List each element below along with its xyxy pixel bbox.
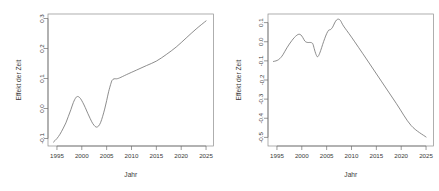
right-plot-svg: 1995200020052010201520202025-0.5-0.4-0.3…	[220, 0, 439, 191]
x-axis-tick-label: 2000	[294, 152, 308, 159]
x-axis-tick-label: 2015	[149, 152, 163, 159]
plot-box	[268, 14, 434, 146]
x-axis-tick-label: 2005	[319, 152, 333, 159]
y-axis-tick-label: -0.1	[38, 133, 45, 144]
y-axis-title: Effekt der Zeit	[234, 59, 241, 100]
y-axis-tick-label: 0.0	[38, 104, 45, 113]
y-axis-tick-label: -0.2	[257, 74, 264, 85]
x-axis-tick-label: 1995	[50, 152, 64, 159]
x-axis-tick-label: 2015	[369, 152, 383, 159]
y-axis-tick-label: -0.1	[257, 55, 264, 66]
chart-panel-left: 1995200020052010201520202025-0.10.00.10.…	[0, 0, 220, 191]
y-axis-tick-label: 0.3	[38, 14, 45, 23]
y-axis-tick-label: 0.1	[257, 18, 264, 27]
x-axis-title: Jahr	[124, 171, 138, 178]
chart-panel-right: 1995200020052010201520202025-0.5-0.4-0.3…	[220, 0, 439, 191]
x-axis-tick-label: 1995	[270, 152, 284, 159]
y-axis-tick-label: 0.1	[38, 74, 45, 83]
x-axis-tick-label: 2025	[199, 152, 213, 159]
x-axis-tick-label: 2020	[174, 152, 188, 159]
x-axis-tick-label: 2000	[75, 152, 89, 159]
data-curve	[273, 19, 426, 137]
y-axis-tick-label: 0.0	[257, 37, 264, 46]
figure-two-panel-line-charts: 1995200020052010201520202025-0.10.00.10.…	[0, 0, 439, 191]
data-curve	[53, 21, 206, 142]
x-axis-tick-label: 2025	[419, 152, 433, 159]
y-axis-tick-label: 0.2	[38, 44, 45, 53]
x-axis-tick-label: 2005	[100, 152, 114, 159]
x-axis-tick-label: 2010	[125, 152, 139, 159]
plot-box	[48, 14, 214, 146]
left-plot-svg: 1995200020052010201520202025-0.10.00.10.…	[0, 0, 220, 191]
x-axis-tick-label: 2020	[394, 152, 408, 159]
y-axis-title: Effekt der Zeit	[15, 59, 22, 100]
x-axis-title: Jahr	[344, 171, 358, 178]
y-axis-tick-label: -0.3	[257, 93, 264, 104]
x-axis-tick-label: 2010	[344, 152, 358, 159]
y-axis-tick-label: -0.4	[257, 112, 264, 123]
y-axis-tick-label: -0.5	[257, 132, 264, 143]
